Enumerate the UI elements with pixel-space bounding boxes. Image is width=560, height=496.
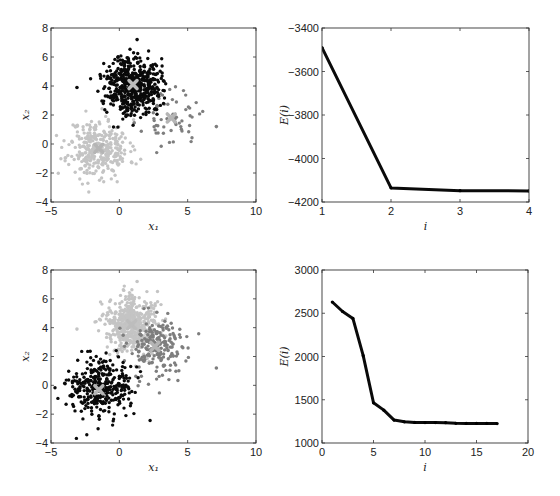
data-point bbox=[444, 421, 447, 424]
data-point bbox=[331, 300, 334, 303]
y-tick-label: 2000 bbox=[295, 351, 319, 363]
axes-box bbox=[51, 28, 256, 202]
figure: −50510−4−202468x₁x₂1234−4200−4000−3800−3… bbox=[0, 0, 560, 496]
y-tick-label: −3600 bbox=[288, 66, 319, 78]
scatter-point bbox=[135, 280, 139, 284]
axes-box bbox=[322, 28, 529, 202]
x-axis-label: i bbox=[423, 461, 427, 474]
data-point bbox=[454, 422, 457, 425]
data-point bbox=[393, 418, 396, 421]
y-tick-label: 2500 bbox=[295, 307, 319, 319]
y-tick-label: 6 bbox=[42, 51, 48, 63]
y-tick-label: 1500 bbox=[295, 394, 319, 406]
y-tick-label: 1000 bbox=[295, 437, 319, 449]
x-tick-label: 5 bbox=[370, 446, 376, 458]
scatter-point bbox=[75, 86, 79, 90]
data-point bbox=[382, 409, 385, 412]
data-point bbox=[403, 420, 406, 423]
chart-bottom-right: 0510152010001500200025003000iE(i) bbox=[278, 264, 534, 474]
y-tick-label: 6 bbox=[42, 293, 48, 305]
data-point bbox=[413, 421, 416, 424]
y-tick-label: −2 bbox=[35, 408, 48, 420]
y-tick-label: −4 bbox=[35, 196, 48, 208]
x-tick-label: 5 bbox=[185, 446, 191, 458]
data-point bbox=[389, 186, 392, 189]
x-tick-label: 10 bbox=[419, 446, 431, 458]
plot-area bbox=[320, 46, 530, 193]
x-tick-label: 0 bbox=[116, 446, 122, 458]
y-tick-label: 8 bbox=[42, 22, 48, 34]
y-tick-label: −2 bbox=[35, 167, 48, 179]
x-tick-label: 20 bbox=[522, 446, 534, 458]
scatter-point bbox=[215, 366, 219, 370]
x-tick-label: 4 bbox=[526, 205, 532, 217]
scatter-point bbox=[75, 327, 79, 331]
x-tick-label: 3 bbox=[457, 205, 463, 217]
x-tick-label: 2 bbox=[388, 205, 394, 217]
y-tick-label: 2 bbox=[42, 351, 48, 363]
x-tick-label: 5 bbox=[185, 205, 191, 217]
x-axis-label: i bbox=[424, 220, 428, 233]
y-tick-label: −4000 bbox=[288, 153, 319, 165]
y-axis-label: E(i) bbox=[278, 105, 291, 126]
y-tick-label: −4 bbox=[35, 437, 48, 449]
plot-area bbox=[53, 280, 218, 440]
chart-top-left: −50510−4−202468x₁x₂ bbox=[19, 22, 262, 233]
scatter-point bbox=[135, 38, 139, 42]
y-tick-label: −3400 bbox=[288, 22, 319, 34]
x-axis-label: x₁ bbox=[148, 220, 159, 233]
data-point bbox=[465, 422, 468, 425]
energy-line bbox=[332, 302, 497, 424]
scatter-point bbox=[215, 125, 219, 129]
x-axis-label: x₁ bbox=[148, 461, 159, 474]
data-point bbox=[372, 401, 375, 404]
plot-area bbox=[55, 38, 218, 194]
x-tick-label: 10 bbox=[250, 446, 262, 458]
data-point bbox=[496, 422, 499, 425]
energy-line bbox=[322, 48, 529, 191]
data-point bbox=[485, 422, 488, 425]
y-tick-label: 3000 bbox=[295, 264, 319, 276]
x-tick-label: 0 bbox=[319, 446, 325, 458]
y-tick-label: 4 bbox=[42, 322, 48, 334]
data-point bbox=[351, 317, 354, 320]
axes-box bbox=[322, 270, 528, 443]
y-axis-label: x₂ bbox=[19, 110, 32, 121]
axis-ticks: 0510152010001500200025003000 bbox=[295, 264, 535, 458]
x-tick-label: 1 bbox=[319, 205, 325, 217]
y-tick-label: 0 bbox=[42, 138, 48, 150]
data-point bbox=[434, 421, 437, 424]
data-point bbox=[341, 310, 344, 313]
chart-bottom-left: −50510−4−202468x₁x₂ bbox=[19, 264, 262, 474]
plot-area bbox=[331, 300, 499, 425]
y-tick-label: 4 bbox=[42, 80, 48, 92]
data-point bbox=[423, 421, 426, 424]
y-tick-label: 2 bbox=[42, 109, 48, 121]
y-tick-label: −3800 bbox=[288, 109, 319, 121]
y-tick-label: 0 bbox=[42, 379, 48, 391]
chart-top-right: 1234−4200−4000−3800−3600−3400iE(i) bbox=[278, 22, 532, 233]
x-tick-label: 10 bbox=[250, 205, 262, 217]
figure-canvas: −50510−4−202468x₁x₂1234−4200−4000−3800−3… bbox=[0, 0, 560, 496]
x-tick-label: 15 bbox=[470, 446, 482, 458]
x-tick-label: 0 bbox=[116, 205, 122, 217]
data-point bbox=[362, 354, 365, 357]
y-tick-label: 8 bbox=[42, 264, 48, 276]
data-point bbox=[475, 422, 478, 425]
y-tick-label: −4200 bbox=[288, 196, 319, 208]
data-point bbox=[458, 189, 461, 192]
y-axis-label: x₂ bbox=[19, 351, 32, 362]
y-axis-label: E(i) bbox=[278, 346, 291, 367]
